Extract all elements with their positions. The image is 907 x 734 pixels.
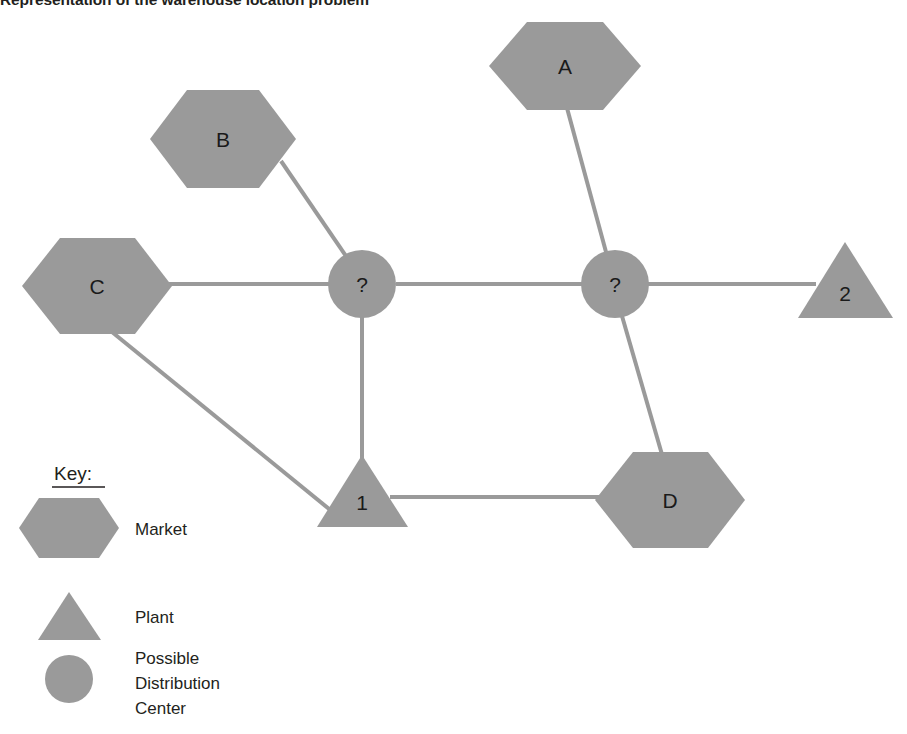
edge-C-plant1 xyxy=(112,332,334,513)
key-label-dc-line-2: Distribution xyxy=(135,674,220,693)
diagram-page: Representation of the warehouse location… xyxy=(0,0,907,734)
key-entry-plant: Plant xyxy=(38,592,174,640)
key-entry-market: Market xyxy=(19,498,187,558)
plant-label-1: 1 xyxy=(356,491,368,514)
key-label-plant: Plant xyxy=(135,608,174,627)
market-node-D[interactable]: D xyxy=(595,452,745,548)
edge-B-dc1 xyxy=(281,161,348,259)
key-label-market: Market xyxy=(135,520,187,539)
key-legend: Key: Market Plant Possible Distribution … xyxy=(19,463,220,718)
key-heading: Key: xyxy=(54,463,92,484)
triangle-shape xyxy=(798,242,893,318)
distribution-center-label-2: ? xyxy=(609,273,621,296)
hexagon-shape xyxy=(19,498,119,558)
market-label-D: D xyxy=(662,489,677,512)
distribution-center-node-2[interactable]: ? xyxy=(581,250,649,318)
market-node-C[interactable]: C xyxy=(22,238,172,334)
key-entry-distribution-center: Possible Distribution Center xyxy=(45,649,220,718)
edge-A-dc2 xyxy=(567,108,606,252)
plant-node-2[interactable]: 2 xyxy=(798,242,893,318)
key-label-dc-line-1: Possible xyxy=(135,649,199,668)
market-label-C: C xyxy=(89,275,104,298)
circle-shape xyxy=(45,655,93,703)
triangle-shape xyxy=(38,592,101,640)
diagram-canvas: A B C D 1 2 ? ? xyxy=(0,0,907,734)
plant-node-1[interactable]: 1 xyxy=(317,455,408,527)
market-node-A[interactable]: A xyxy=(489,22,641,110)
plant-label-2: 2 xyxy=(839,282,851,305)
edge-dc2-D xyxy=(622,316,663,458)
market-node-B[interactable]: B xyxy=(150,90,296,188)
market-label-B: B xyxy=(216,128,230,151)
key-label-dc-line-3: Center xyxy=(135,699,186,718)
market-label-A: A xyxy=(558,55,572,78)
distribution-center-label-1: ? xyxy=(356,273,368,296)
distribution-center-node-1[interactable]: ? xyxy=(328,250,396,318)
